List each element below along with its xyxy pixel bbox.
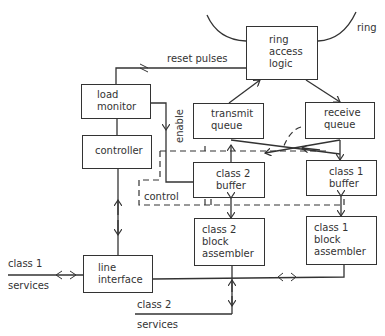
class2-block-assembler-block: class 2 block assembler xyxy=(194,218,265,266)
ring-label: ring xyxy=(357,22,377,34)
class2-services-label: class 2 xyxy=(137,299,171,311)
class1-buffer-label: class 1 buffer xyxy=(329,166,363,190)
transmit-to-ring-arrow xyxy=(229,80,260,103)
reset-pulses-label: reset pulses xyxy=(167,53,228,65)
enable-label: enable xyxy=(174,109,186,143)
ring-to-receive-arrow xyxy=(306,80,340,102)
ring-access-logic-label: ring access logic xyxy=(269,34,303,70)
receive-queue-label: receive queue xyxy=(324,107,361,131)
class2-buffer-label: class 2 buffer xyxy=(216,168,250,192)
load-monitor-block: load monitor xyxy=(81,84,151,119)
assembler-bus xyxy=(153,265,344,279)
class1-block-assembler-label: class 1 block assembler xyxy=(314,222,366,258)
receive-queue-block: receive queue xyxy=(305,102,375,139)
class2-services-sub-label: services xyxy=(137,319,178,331)
class2-buffer-block: class 2 buffer xyxy=(193,162,265,198)
line-interface-label: line interface xyxy=(98,262,143,286)
transmit-queue-label: transmit queue xyxy=(211,108,253,132)
class1-services-sub-label: services xyxy=(8,280,49,292)
class1-buffer-block: class 1 buffer xyxy=(306,160,377,196)
controller-label: controller xyxy=(95,145,143,157)
ring-access-logic-block: ring access logic xyxy=(246,26,318,80)
reset-pulses-line xyxy=(116,68,246,84)
class1-block-assembler-block: class 1 block assembler xyxy=(306,216,377,265)
class2-block-assembler-label: class 2 block assembler xyxy=(202,224,254,260)
transmit-queue-block: transmit queue xyxy=(193,103,264,139)
load-monitor-label: load monitor xyxy=(97,89,136,113)
ring-arc-right xyxy=(318,12,356,41)
block-diagram: ring access logic load monitor controlle… xyxy=(0,0,385,336)
controller-block: controller xyxy=(82,135,152,169)
control-label: control xyxy=(144,191,179,203)
line-interface-block: line interface xyxy=(83,255,153,293)
enable-arrow xyxy=(151,103,166,130)
class1-services-label: class 1 xyxy=(8,258,42,270)
ring-arc-left xyxy=(207,15,246,41)
